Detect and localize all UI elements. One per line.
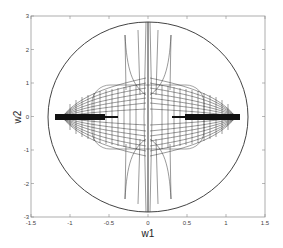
right-attractor-band xyxy=(185,114,240,120)
y-tick-label: -1 xyxy=(24,147,30,153)
x-tick-labels: -1.5 -1 -0.5 0 0.5 1 1.5 xyxy=(26,220,270,226)
y-tick-label: -3 xyxy=(24,214,30,220)
y-tick-label: 1 xyxy=(26,80,30,86)
x-tick-label: 0.5 xyxy=(183,220,192,226)
x-tick-label: 0 xyxy=(146,220,150,226)
x-axis-label: w1 xyxy=(141,228,155,239)
x-tick-label: -1.5 xyxy=(26,220,37,226)
x-tick-label: -0.5 xyxy=(104,220,115,226)
x-tick-label: 1.5 xyxy=(261,220,270,226)
x-tick-label: 1 xyxy=(224,220,228,226)
y-tick-label: 2 xyxy=(26,47,30,53)
y-tick-labels: 3 2 1 0 -1 -2 -3 xyxy=(24,13,30,220)
y-tick-label: 3 xyxy=(26,13,30,19)
y-axis-label: w2 xyxy=(12,110,23,124)
phase-portrait-figure: -1.5 -1 -0.5 0 0.5 1 1.5 3 2 1 0 -1 -2 -… xyxy=(0,0,283,248)
y-tick-label: -2 xyxy=(24,181,30,187)
left-attractor-band xyxy=(55,114,105,120)
x-tick-label: -1 xyxy=(67,220,73,226)
y-tick-label: 0 xyxy=(26,114,30,120)
